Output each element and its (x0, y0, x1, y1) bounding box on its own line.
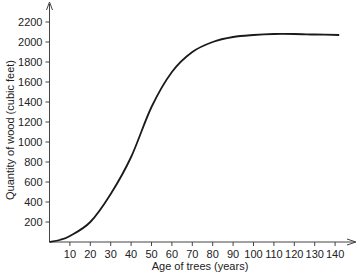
growth-curve (50, 34, 340, 242)
y-tick-label: 1400 (18, 96, 42, 108)
x-tick-label: 20 (84, 248, 96, 260)
y-tick-label: 1800 (18, 56, 42, 68)
x-tick-label: 120 (285, 248, 303, 260)
x-tick-label: 40 (125, 248, 137, 260)
x-tick-label: 70 (186, 248, 198, 260)
x-tick-label: 50 (145, 248, 157, 260)
y-tick-label: 1600 (18, 76, 42, 88)
y-tick-label: 1000 (18, 136, 42, 148)
y-axis-label: Quantity of wood (cubic feet) (4, 60, 16, 200)
y-tick-label: 2000 (18, 36, 42, 48)
x-tick-label: 30 (105, 248, 117, 260)
x-tick-label: 90 (227, 248, 239, 260)
y-tick-label: 200 (24, 216, 42, 228)
line-chart: 2004006008001000120014001600180020002200… (0, 0, 361, 275)
y-tick-label: 600 (24, 176, 42, 188)
x-axis-label: Age of trees (years) (152, 260, 249, 272)
y-tick-label: 1200 (18, 116, 42, 128)
x-tick-label: 100 (244, 248, 262, 260)
x-tick-label: 110 (265, 248, 283, 260)
x-tick-label: 140 (326, 248, 344, 260)
x-tick-label: 60 (166, 248, 178, 260)
y-tick-label: 800 (24, 156, 42, 168)
x-tick-label: 80 (207, 248, 219, 260)
y-tick-label: 400 (24, 196, 42, 208)
y-tick-label: 2200 (18, 16, 42, 28)
x-tick-label: 10 (64, 248, 76, 260)
x-tick-label: 130 (306, 248, 324, 260)
